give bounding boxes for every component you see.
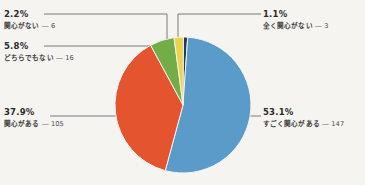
callout-category-sugoku-kanshin-ga-aru: すごく関心がある ― 147 (263, 119, 344, 129)
leader-line-navy (178, 14, 261, 40)
callout-category-text-zenku-kanshin-ga-nai: 全く関心がない (263, 22, 313, 30)
callout-sep-sugoku-kanshin-ga-aru: ― (322, 120, 329, 128)
callout-percent-sugoku-kanshin-ga-aru: 53.1% (263, 107, 344, 118)
callout-percent-kanshin-ga-aru: 37.9% (4, 107, 64, 118)
callout-category-dochira-demo-nai: どちらでもない ― 16 (4, 53, 74, 63)
callout-count-kanshin-ga-nai: 6 (51, 22, 55, 30)
callout-sep-kanshin-ga-nai: ― (42, 22, 49, 30)
callout-count-zenku-kanshin-ga-nai: 3 (324, 22, 328, 30)
pie-chart-figure: 2.2% 関心がない ― 6 5.8% どちらでもない ― 16 37.9% 関… (0, 0, 365, 185)
callout-category-text-sugoku-kanshin-ga-aru: すごく関心がある (263, 120, 320, 128)
callout-category-zenku-kanshin-ga-nai: 全く関心がない ― 3 (263, 21, 329, 31)
callout-count-dochira-demo-nai: 16 (65, 54, 74, 62)
callout-category-kanshin-ga-aru: 関心がある ― 105 (4, 119, 64, 129)
callout-category-text-kanshin-ga-aru: 関心がある (4, 120, 40, 128)
callout-sep-dochira-demo-nai: ― (56, 54, 63, 62)
callout-sep-zenku-kanshin-ga-nai: ― (315, 22, 322, 30)
callout-label-dochira-demo-nai: 5.8% どちらでもない ― 16 (4, 41, 74, 63)
callout-percent-dochira-demo-nai: 5.8% (4, 41, 74, 52)
callout-percent-kanshin-ga-nai: 2.2% (4, 9, 55, 20)
callout-percent-zenku-kanshin-ga-nai: 1.1% (263, 9, 329, 20)
callout-sep-kanshin-ga-aru: ― (42, 120, 49, 128)
callout-label-kanshin-ga-nai: 2.2% 関心がない ― 6 (4, 9, 55, 31)
callout-label-zenku-kanshin-ga-nai: 1.1% 全く関心がない ― 3 (263, 9, 329, 31)
callout-label-sugoku-kanshin-ga-aru: 53.1% すごく関心がある ― 147 (263, 107, 344, 129)
callout-label-kanshin-ga-aru: 37.9% 関心がある ― 105 (4, 107, 64, 129)
pie-slices (115, 37, 251, 173)
callout-count-sugoku-kanshin-ga-aru: 147 (331, 120, 344, 128)
callout-category-text-kanshin-ga-nai: 関心がない (4, 22, 40, 30)
leader-line-yellow (44, 14, 167, 44)
callout-category-kanshin-ga-nai: 関心がない ― 6 (4, 21, 55, 31)
callout-category-text-dochira-demo-nai: どちらでもない (4, 54, 54, 62)
callout-count-kanshin-ga-aru: 105 (51, 120, 64, 128)
